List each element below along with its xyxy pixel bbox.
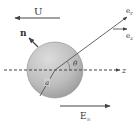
axial-unit-label: ez [126, 32, 133, 41]
field-label: E∞ [80, 111, 91, 122]
sphere-diagram: U n z er ez θ a E∞ [0, 0, 139, 123]
radius-label: a [45, 79, 49, 87]
velocity-label: U [34, 6, 42, 17]
normal-arrow [29, 38, 38, 47]
normal-label: n [20, 28, 27, 38]
radial-unit-vector [55, 17, 127, 70]
z-axis-label: z [121, 66, 127, 75]
radial-unit-label: er [126, 7, 133, 16]
